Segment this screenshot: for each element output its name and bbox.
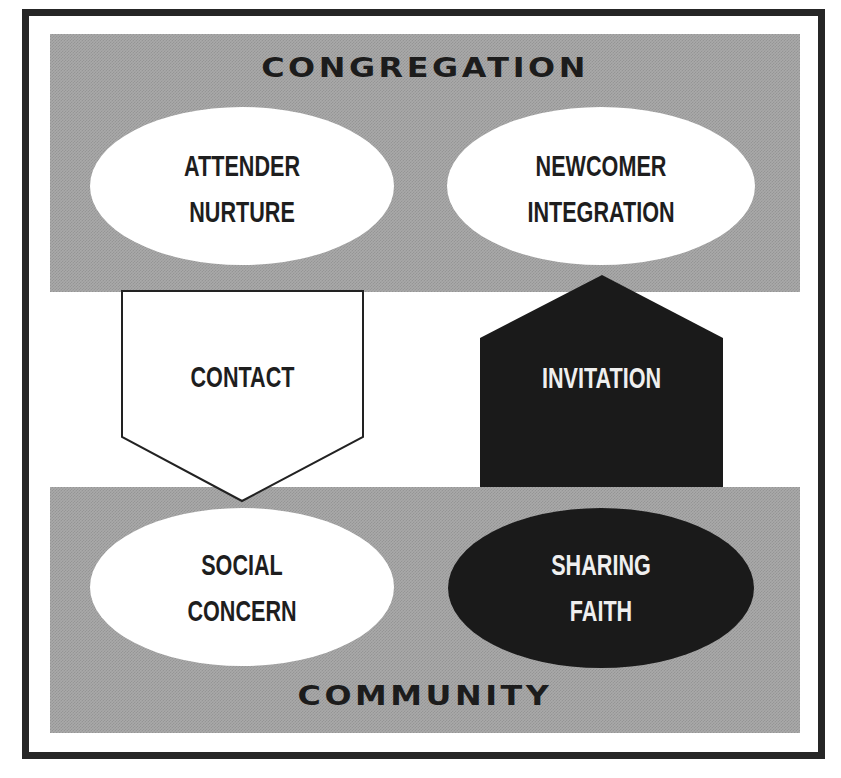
sharing-faith-label: SHARING FAITH xyxy=(493,542,709,634)
social-concern-label: SOCIAL CONCERN xyxy=(134,542,350,634)
attender-nurture-line-2: NURTURE xyxy=(134,189,350,235)
sharing-faith-line-1: SHARING xyxy=(493,542,709,588)
attender-nurture-label: ATTENDER NURTURE xyxy=(134,143,350,235)
sharing-faith-line-2: FAITH xyxy=(493,588,709,634)
contact-label: CONTACT xyxy=(156,354,330,400)
attender-nurture-line-1: ATTENDER xyxy=(134,143,350,189)
invitation-label: INVITATION xyxy=(514,355,689,401)
social-concern-line-1: SOCIAL xyxy=(134,542,350,588)
social-concern-line-2: CONCERN xyxy=(134,588,350,634)
invitation-text: INVITATION xyxy=(514,355,689,401)
newcomer-integration-line-1: NEWCOMER xyxy=(493,143,709,189)
newcomer-integration-line-2: INTEGRATION xyxy=(493,189,709,235)
contact-text: CONTACT xyxy=(156,354,330,400)
diagram-shapes xyxy=(0,0,841,778)
newcomer-integration-label: NEWCOMER INTEGRATION xyxy=(493,143,709,235)
